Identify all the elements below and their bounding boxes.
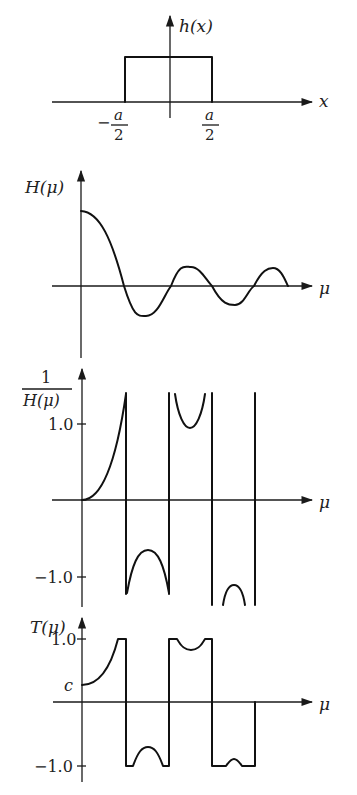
inverse-label-numerator: 1	[41, 368, 51, 387]
tick-1-label: 1.0	[48, 415, 73, 434]
right-tick-denominator: 2	[205, 126, 215, 144]
mu-axis-label: μ	[319, 492, 330, 512]
inverse-filter-panel: 1 H(μ) 1.0 −1.0 μ	[22, 368, 330, 607]
H-axis-label: H(μ)	[24, 177, 64, 197]
sinc-curve	[81, 211, 288, 316]
mu-axis-label: μ	[319, 694, 330, 714]
inverse-label-denominator: H(μ)	[22, 391, 60, 410]
clipped-filter-panel: T(μ) 1.0 c −1.0 μ	[30, 617, 330, 782]
inverse-branch-3	[175, 394, 205, 428]
left-tick-numerator: a	[114, 106, 123, 124]
left-tick-sign: −	[97, 113, 110, 132]
rect-pulse	[125, 57, 212, 102]
h-axis-label: h(x)	[179, 16, 213, 36]
inverse-branch-2	[127, 550, 169, 593]
inverse-branch-1	[82, 394, 126, 500]
transfer-function-panel: H(μ) μ	[24, 171, 330, 358]
rect-function-panel: h(x) x − a 2 a 2	[52, 16, 329, 144]
mu-axis-label: μ	[319, 278, 330, 298]
left-tick-denominator: 2	[114, 126, 124, 144]
inverse-branch-4	[223, 585, 245, 605]
tick-c-label: c	[64, 676, 73, 695]
x-axis-label: x	[319, 91, 329, 111]
diagram-canvas: h(x) x − a 2 a 2 H(μ) μ 1 H(μ)	[0, 0, 357, 795]
tick-neg1-label: −1.0	[34, 568, 73, 587]
tick-neg1-label: −1.0	[34, 757, 73, 776]
right-tick-numerator: a	[205, 106, 214, 124]
tick-1-label: 1.0	[51, 630, 76, 649]
